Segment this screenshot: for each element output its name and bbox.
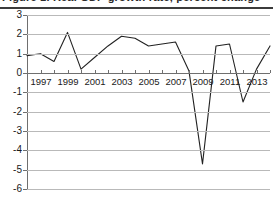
y-axis-tick-label: 2 — [0, 29, 22, 39]
y-axis-tick-label: 1 — [0, 49, 22, 59]
x-axis-tick — [41, 70, 42, 73]
x-axis-tick — [135, 70, 136, 73]
x-axis-tick — [257, 70, 258, 73]
y-axis-tick — [23, 34, 27, 35]
gridline — [27, 150, 270, 151]
y-axis-tick-label: -3 — [0, 126, 22, 136]
figure-title-band: Figure 1. Real GDP growth rate, percent … — [0, 0, 273, 7]
y-axis-tick — [23, 131, 27, 132]
x-axis-tick-label: 2011 — [215, 77, 245, 87]
y-axis-tick-label: -2 — [0, 107, 22, 117]
y-axis-tick-label: 3 — [0, 10, 22, 20]
zero-axis-line — [27, 73, 270, 74]
x-axis-tick — [216, 70, 217, 73]
x-axis-tick — [230, 70, 231, 73]
x-axis-tick-label: 2005 — [134, 77, 164, 87]
gridline — [27, 189, 270, 190]
x-axis-tick-label: 1997 — [26, 77, 56, 87]
title-divider-rule — [0, 7, 273, 9]
x-axis-tick — [122, 70, 123, 73]
series-growth-rate — [27, 15, 270, 189]
y-axis-tick — [23, 150, 27, 151]
gridline — [27, 34, 270, 35]
x-axis-tick — [189, 70, 190, 73]
x-axis-tick — [243, 70, 244, 73]
x-axis-tick-label: 1999 — [53, 77, 83, 87]
y-axis-tick-label: -4 — [0, 145, 22, 155]
x-axis-tick-label: 2013 — [242, 77, 272, 87]
y-axis-tick — [23, 92, 27, 93]
figure-panel: Figure 1. Real GDP growth rate, percent … — [0, 0, 273, 201]
gridline — [27, 131, 270, 132]
x-axis-tick — [176, 70, 177, 73]
x-axis-tick — [68, 70, 69, 73]
x-axis-tick-label: 2001 — [80, 77, 110, 87]
x-axis-tick — [95, 70, 96, 73]
x-axis-tick-label: 2007 — [161, 77, 191, 87]
y-axis-tick — [23, 73, 27, 74]
figure-title: Figure 1. Real GDP growth rate, percent … — [2, 0, 260, 3]
gridline — [27, 54, 270, 55]
gridline — [27, 92, 270, 93]
x-axis-tick — [54, 70, 55, 73]
y-axis-tick — [23, 54, 27, 55]
x-axis-tick — [270, 70, 271, 73]
plot-area — [27, 15, 270, 189]
x-axis-tick — [27, 70, 28, 73]
gridline — [27, 15, 270, 16]
y-axis-tick — [23, 112, 27, 113]
y-axis-tick — [23, 15, 27, 16]
x-axis-tick — [162, 70, 163, 73]
y-axis-tick-label: -1 — [0, 87, 22, 97]
x-axis-tick — [149, 70, 150, 73]
y-axis-tick-label: -6 — [0, 184, 22, 194]
x-axis-tick-label: 2003 — [107, 77, 137, 87]
gridline — [27, 112, 270, 113]
y-axis-tick-label: 0 — [0, 68, 22, 78]
y-axis-tick — [23, 189, 27, 190]
y-axis-tick-label: -5 — [0, 165, 22, 175]
x-axis-tick-label: 2009 — [188, 77, 218, 87]
gridline — [27, 170, 270, 171]
x-axis-tick — [108, 70, 109, 73]
x-axis-tick — [81, 70, 82, 73]
y-axis-tick — [23, 170, 27, 171]
x-axis-tick — [203, 70, 204, 73]
